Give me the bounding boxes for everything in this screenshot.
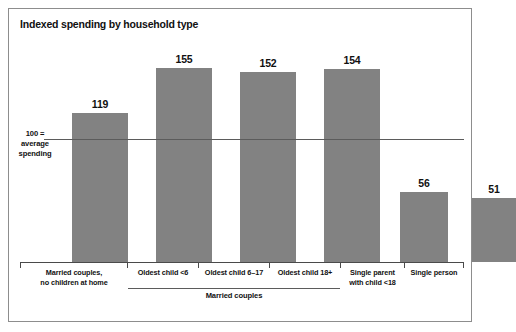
bar-5 — [472, 198, 516, 262]
category-label-1-line-1: Oldest child <6 — [128, 268, 198, 278]
bar-group-oldest-child-under-6: 155 — [156, 36, 212, 262]
group-bracket-line — [128, 288, 340, 289]
chart-title: Indexed spending by household type — [20, 18, 198, 30]
bar-value-2: 152 — [240, 57, 296, 69]
reference-label-line-3: spending — [12, 149, 58, 159]
category-label-3-line-1: Oldest child 18+ — [270, 268, 340, 278]
bar-group-single-parent: 56 — [400, 36, 448, 262]
group-bracket-label: Married couples — [128, 291, 340, 300]
axis-tick-0 — [20, 262, 21, 268]
bar-group-married-no-children: 119 — [72, 36, 128, 262]
bar-group-single-person: 51 — [472, 36, 516, 262]
reference-line-label: 100 = average spending — [12, 129, 58, 159]
reference-label-line-2: average — [12, 139, 58, 149]
category-label-1: Oldest child <6 — [128, 268, 198, 278]
axis-tick-6 — [463, 262, 464, 268]
reference-line-100 — [44, 139, 464, 140]
bar-value-5: 51 — [472, 183, 516, 195]
bar-0 — [72, 113, 128, 262]
bar-value-1: 155 — [156, 53, 212, 65]
category-label-5-line-1: Single person — [405, 268, 463, 278]
bar-group-oldest-child-6-17: 152 — [240, 36, 296, 262]
category-label-4: Single parent with child <18 — [341, 268, 404, 288]
bar-2 — [240, 72, 296, 262]
category-label-3: Oldest child 18+ — [270, 268, 340, 278]
bar-value-0: 119 — [72, 98, 128, 110]
bar-3 — [324, 69, 380, 262]
bar-1 — [156, 68, 212, 262]
bar-group-oldest-child-18-plus: 154 — [324, 36, 380, 262]
reference-label-line-1: 100 = — [12, 129, 58, 139]
category-label-4-line-2: with child <18 — [341, 278, 404, 288]
bar-value-3: 154 — [324, 54, 380, 66]
category-label-2: Oldest child 6–17 — [199, 268, 269, 278]
category-label-0: Married couples, no children at home — [24, 268, 124, 288]
category-label-0-line-1: Married couples, — [24, 268, 124, 278]
category-label-5: Single person — [405, 268, 463, 278]
bar-4 — [400, 192, 448, 262]
bar-value-4: 56 — [400, 177, 448, 189]
category-label-4-line-1: Single parent — [341, 268, 404, 278]
plot-area: 119 155 152 154 56 51 — [60, 36, 464, 262]
x-axis-line — [20, 262, 464, 263]
category-label-2-line-1: Oldest child 6–17 — [199, 268, 269, 278]
category-label-0-line-2: no children at home — [24, 278, 124, 288]
